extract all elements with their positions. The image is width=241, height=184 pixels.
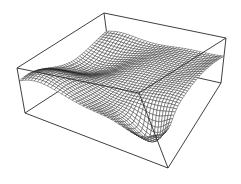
box-edge-right-vertical — [221, 38, 226, 83]
surface-plot — [0, 0, 241, 184]
box-edge-left-vertical — [17, 68, 25, 113]
wireframe-surface-mesh — [19, 31, 224, 142]
